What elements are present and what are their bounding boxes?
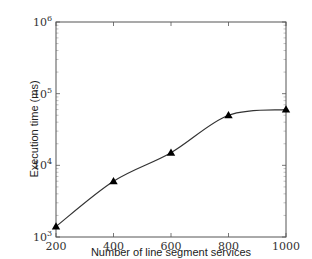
line-chart: 2004006008001000 103104105106 Number of … [0, 0, 312, 259]
x-tick-label: 200 [46, 240, 67, 253]
x-axis-title: Number of line segment services [91, 246, 252, 258]
x-tick-label: 1000 [272, 240, 300, 253]
y-axis-title: Execution time (ms) [28, 80, 40, 177]
chart-background [0, 0, 312, 259]
